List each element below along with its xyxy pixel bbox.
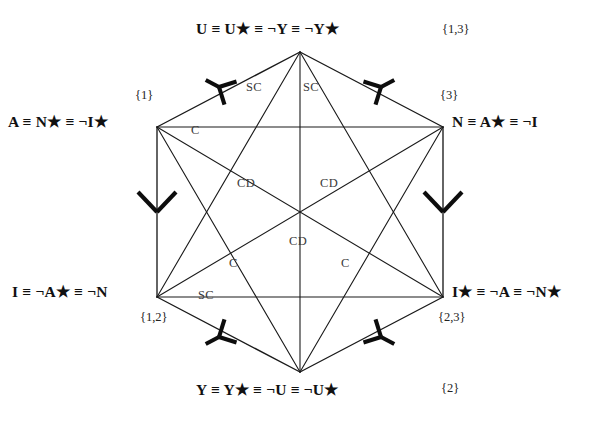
vertex-set-lowerleft: {1,2}	[140, 310, 168, 325]
vertex-set-top: {1,3}	[442, 22, 470, 37]
chevron-prong-b	[443, 192, 462, 212]
vertex-label-lowerright: I★ ≡ ¬A ≡ ¬N★	[452, 283, 561, 301]
vertex-set-bottom: {2}	[441, 381, 459, 396]
fork-stem	[381, 80, 394, 87]
hexagon-inner-edges	[157, 52, 443, 372]
fork-stem	[381, 337, 394, 344]
edge-label-sc-top-right: SC	[303, 80, 319, 95]
vertex-label-top: U ≡ U★ ≡ ¬Y ≡ ¬Y★	[196, 20, 339, 38]
arrow-bottom-left-edge-icon	[200, 319, 237, 355]
vertex-set-upperright: {3}	[440, 88, 458, 103]
vertex-label-upperright: N ≡ A★ ≡ ¬I	[452, 113, 538, 131]
vertex-label-lowerleft: I ≡ ¬A★ ≡ ¬N	[12, 283, 108, 301]
vertex-label-upperleft: A ≡ N★ ≡ ¬I★	[8, 113, 108, 131]
hexagon-graph-svg	[0, 0, 616, 425]
fork-stem	[206, 337, 219, 344]
edge-label-c-lower-right: C	[341, 256, 350, 271]
fork-stem	[206, 80, 219, 87]
edge-label-sc-bottom-left: SC	[198, 288, 214, 303]
arrow-bottom-right-edge-icon	[363, 319, 400, 355]
arrow-top-right-edge-icon	[363, 69, 400, 105]
edge-label-cd-center: CD	[289, 234, 307, 249]
edge-label-cd-mid-left: CD	[237, 176, 255, 191]
chevron-prong-b	[157, 192, 176, 212]
arrow-top-left-edge-icon	[200, 69, 237, 105]
vertex-label-bottom: Y ≡ Y★ ≡ ¬U ≡ ¬U★	[196, 381, 338, 399]
hexagon-diagram-page: U ≡ U★ ≡ ¬Y ≡ ¬Y★ {1,3} A ≡ N★ ≡ ¬I★ {1}…	[0, 0, 616, 425]
edge-label-sc-top-left: SC	[246, 80, 262, 95]
edge-label-cd-mid-right: CD	[320, 176, 338, 191]
edge-label-c-lower-left: C	[229, 256, 238, 271]
chevron-prong-a	[138, 192, 157, 212]
chevron-prong-a	[424, 192, 443, 212]
vertex-set-lowerright: {2,3}	[438, 310, 466, 325]
edge-label-c-upper-left: C	[191, 123, 200, 138]
vertex-set-upperleft: {1}	[135, 88, 153, 103]
